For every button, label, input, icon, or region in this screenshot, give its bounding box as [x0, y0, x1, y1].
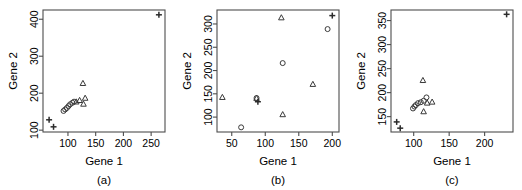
y-tick-label: 100 — [28, 121, 40, 139]
data-point-triangle — [279, 15, 285, 20]
panel-b: 50100150200100150200250300Gene 1Gene 2(b… — [174, 0, 348, 190]
data-point-circle — [424, 95, 429, 100]
data-point-circle — [280, 61, 285, 66]
y-tick-label: 300 — [376, 36, 388, 54]
x-tick-label: 150 — [290, 137, 308, 149]
panel-caption: (a) — [97, 174, 111, 186]
data-point-plus — [255, 99, 261, 105]
panel-a-plot: 100150200250100200300400Gene 1Gene 2(a) — [0, 0, 174, 190]
data-point-plus — [329, 13, 335, 19]
data-point-triangle — [80, 80, 86, 85]
panel-c-plot: 100150200150200250300350Gene 1Gene 2(c) — [348, 0, 522, 190]
y-tick-label: 250 — [376, 60, 388, 78]
panel-a: 100150200250100200300400Gene 1Gene 2(a) — [0, 0, 174, 190]
data-point-triangle — [420, 77, 426, 82]
data-point-triangle — [280, 112, 286, 117]
data-point-triangle — [77, 97, 83, 102]
y-tick-label: 250 — [202, 38, 214, 56]
y-tick-label: 300 — [28, 47, 40, 65]
data-point-plus — [46, 117, 52, 123]
y-tick-label: 200 — [28, 84, 40, 102]
x-tick-label: 150 — [87, 137, 105, 149]
y-tick-label: 150 — [376, 108, 388, 126]
panel-caption: (b) — [271, 174, 285, 186]
x-axis-title: Gene 1 — [259, 155, 297, 167]
data-point-triangle — [421, 109, 427, 114]
plot-frame — [391, 10, 513, 132]
data-point-plus — [394, 119, 400, 125]
x-tick-label: 250 — [142, 137, 160, 149]
y-axis-title: Gene 2 — [355, 52, 367, 90]
y-tick-label: 200 — [202, 62, 214, 80]
y-tick-label: 300 — [202, 15, 214, 33]
y-axis-title: Gene 2 — [7, 52, 19, 90]
x-axis-title: Gene 1 — [85, 155, 123, 167]
data-point-triangle — [429, 99, 435, 104]
data-point-circle — [239, 125, 244, 130]
data-point-plus — [504, 11, 510, 17]
data-point-triangle — [220, 94, 226, 99]
figure-three-scatter-panels: 100150200250100200300400Gene 1Gene 2(a) … — [0, 0, 522, 190]
x-tick-label: 200 — [476, 137, 494, 149]
panel-b-plot: 50100150200100150200250300Gene 1Gene 2(b… — [174, 0, 348, 190]
y-tick-label: 150 — [202, 85, 214, 103]
y-tick-label: 400 — [28, 10, 40, 28]
y-tick-label: 200 — [376, 84, 388, 102]
x-tick-label: 200 — [324, 137, 342, 149]
data-point-plus — [156, 12, 162, 18]
plot-frame — [217, 10, 339, 132]
x-tick-label: 100 — [256, 137, 274, 149]
x-tick-label: 100 — [59, 137, 77, 149]
y-tick-label: 350 — [376, 12, 388, 30]
plot-frame — [43, 10, 165, 132]
panel-caption: (c) — [445, 174, 459, 186]
x-tick-label: 150 — [440, 137, 458, 149]
data-point-circle — [325, 27, 330, 32]
data-point-triangle — [82, 95, 88, 100]
x-axis-title: Gene 1 — [433, 155, 471, 167]
y-tick-label: 100 — [202, 108, 214, 126]
data-point-plus — [397, 125, 403, 131]
data-point-triangle — [310, 81, 316, 86]
panel-c: 100150200150200250300350Gene 1Gene 2(c) — [348, 0, 522, 190]
x-tick-label: 50 — [226, 137, 238, 149]
x-tick-label: 200 — [115, 137, 133, 149]
y-axis-title: Gene 2 — [181, 52, 193, 90]
x-tick-label: 100 — [405, 137, 423, 149]
data-point-plus — [51, 124, 57, 130]
